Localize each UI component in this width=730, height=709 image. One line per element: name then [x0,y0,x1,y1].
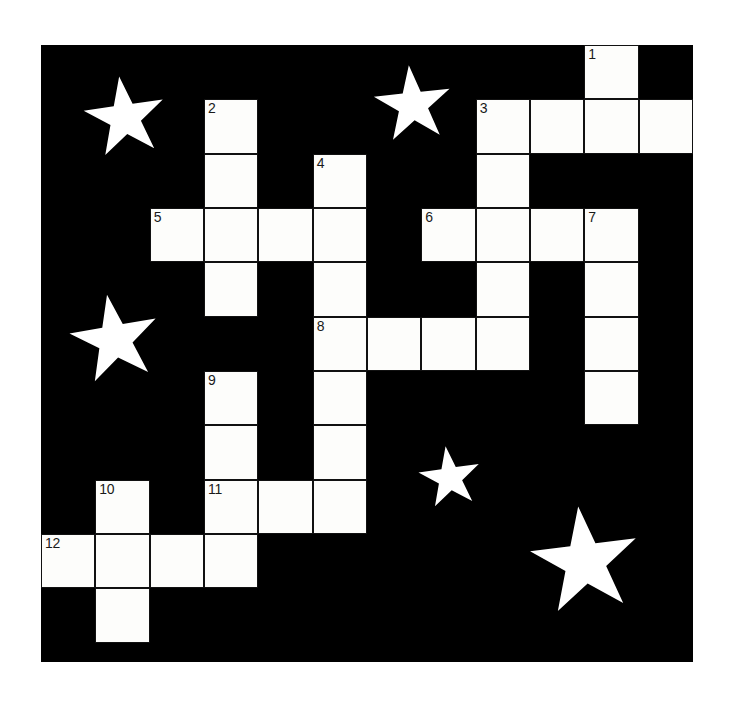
grid-cell[interactable] [476,154,530,208]
cell-number: 1 [588,46,596,62]
grid-cell[interactable]: 8 [313,317,367,371]
star-top-center-icon [367,59,459,151]
grid-cell[interactable] [150,534,204,588]
grid-cell[interactable] [530,208,584,262]
cell-number: 6 [425,209,433,225]
cell-number: 3 [480,100,488,116]
cell-number: 11 [208,481,222,497]
grid-cell[interactable]: 10 [95,480,149,534]
grid-cell[interactable] [313,262,367,316]
grid-cell[interactable] [204,425,258,479]
grid-cell[interactable] [95,534,149,588]
star-lower-center-icon [412,440,488,516]
grid-cell[interactable] [530,99,584,153]
cell-number: 4 [317,155,325,171]
crossword-page: 123456789101112 [0,0,730,709]
grid-cell[interactable] [476,317,530,371]
cell-number: 9 [208,372,216,388]
grid-cell[interactable] [584,262,638,316]
grid-cell[interactable] [258,480,312,534]
grid-cell[interactable] [313,208,367,262]
grid-cell[interactable] [95,588,149,642]
grid-cell[interactable] [639,99,693,153]
grid-cell[interactable]: 2 [204,99,258,153]
grid-cell[interactable] [313,480,367,534]
crossword-grid[interactable]: 123456789101112 [41,45,693,662]
cell-number: 5 [154,209,162,225]
grid-cell[interactable] [367,317,421,371]
grid-cell[interactable] [584,371,638,425]
cell-number: 12 [45,535,60,551]
grid-cell[interactable] [584,317,638,371]
cell-number: 10 [99,481,114,497]
grid-cell[interactable] [313,371,367,425]
grid-cell[interactable]: 5 [150,208,204,262]
grid-cell[interactable]: 3 [476,99,530,153]
grid-cell[interactable] [204,208,258,262]
grid-cell[interactable] [421,317,475,371]
grid-cell[interactable] [204,262,258,316]
grid-cell[interactable]: 6 [421,208,475,262]
grid-cell[interactable]: 12 [41,534,95,588]
grid-cell[interactable] [476,208,530,262]
star-middle-left-icon [63,288,167,392]
grid-cell[interactable]: 7 [584,208,638,262]
grid-cell[interactable] [476,262,530,316]
grid-cell[interactable] [584,99,638,153]
cell-number: 8 [317,318,325,334]
grid-cell[interactable] [204,154,258,208]
cell-number: 7 [588,209,596,225]
star-top-left-icon [77,70,173,166]
grid-cell[interactable] [258,208,312,262]
grid-cell[interactable]: 9 [204,371,258,425]
grid-cell[interactable]: 11 [204,480,258,534]
star-bottom-right-icon [523,500,647,624]
grid-cell[interactable]: 4 [313,154,367,208]
grid-cell[interactable]: 1 [584,45,638,99]
cell-number: 2 [208,100,216,116]
grid-cell[interactable] [204,534,258,588]
grid-cell[interactable] [313,425,367,479]
